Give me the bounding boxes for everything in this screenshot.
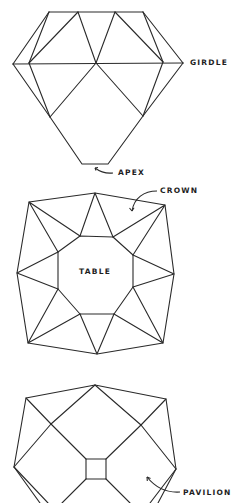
side-view [13, 12, 183, 173]
apex-label: APEX [118, 169, 145, 177]
pavilion-view [14, 385, 180, 503]
pavilion-label: PAVILION [183, 489, 232, 497]
crown-label: CROWN [160, 187, 198, 195]
side-view-drawing [0, 0, 241, 503]
table-label: TABLE [79, 268, 111, 276]
gem-diagram-canvas: GIRDLE APEX CROWN TABLE PAVILION [0, 0, 241, 503]
girdle-label: GIRDLE [190, 59, 228, 67]
